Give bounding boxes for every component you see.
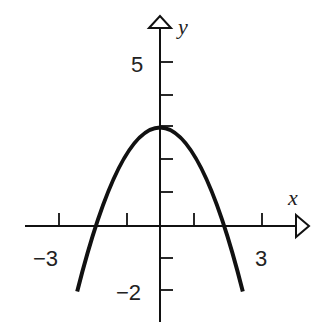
y-tick-label-neg2: −2 — [116, 280, 141, 305]
y-ticks — [160, 62, 173, 290]
x-axis-label: x — [287, 185, 298, 210]
x-axis-arrow-icon — [296, 215, 309, 237]
x-tick-label-3: 3 — [255, 246, 267, 271]
x-tick-label-neg3: −3 — [33, 246, 58, 271]
y-axis-label: y — [176, 14, 188, 39]
y-axis-arrow-icon — [149, 16, 171, 28]
y-tick-label-5: 5 — [131, 52, 143, 77]
parabola-graph: 5 −2 −3 3 x y — [0, 0, 319, 326]
